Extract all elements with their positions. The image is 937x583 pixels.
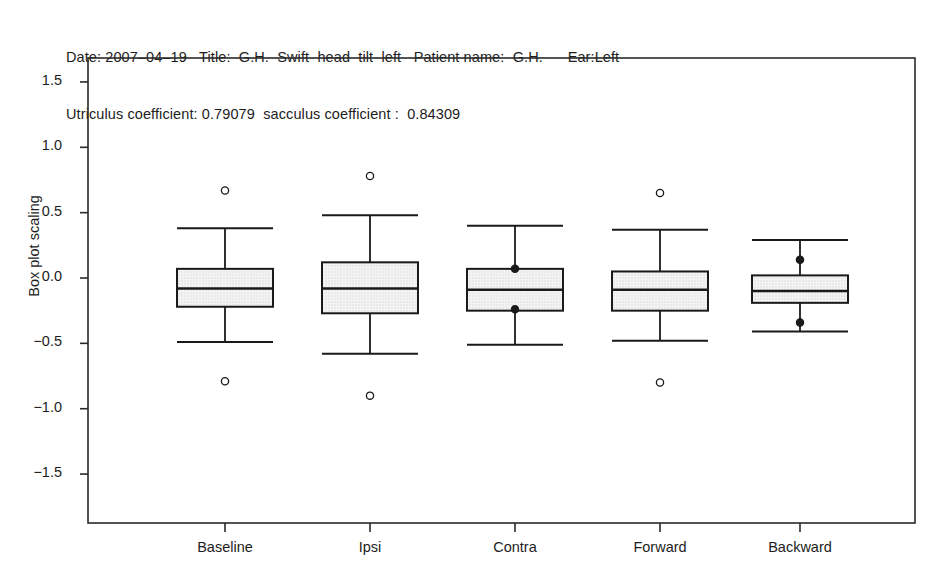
- data-point-marker: [511, 265, 518, 272]
- box-rect: [752, 275, 848, 302]
- outlier-marker: [656, 189, 663, 196]
- boxplot-canvas: [0, 0, 937, 583]
- outlier-marker: [656, 379, 663, 386]
- data-point-marker: [796, 256, 803, 263]
- x-tick-label: Backward: [730, 539, 870, 555]
- outlier-marker: [366, 392, 373, 399]
- outlier-marker: [366, 172, 373, 179]
- x-tick-label: Forward: [590, 539, 730, 555]
- box-rect: [612, 271, 708, 310]
- x-tick-label: Ipsi: [300, 539, 440, 555]
- outlier-marker: [221, 378, 228, 385]
- box-plot-group: [177, 187, 273, 385]
- box-plot-group: [612, 189, 708, 386]
- data-point-marker: [511, 306, 518, 313]
- box-plot-group: [322, 172, 418, 399]
- x-tick-label: Contra: [445, 539, 585, 555]
- box-plot-group: [467, 226, 563, 345]
- data-point-marker: [796, 319, 803, 326]
- box-plot-group: [752, 240, 848, 331]
- outlier-marker: [221, 187, 228, 194]
- x-tick-label: Baseline: [155, 539, 295, 555]
